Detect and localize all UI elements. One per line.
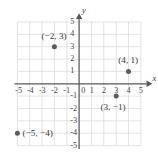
data-point-neg5-neg4[interactable] (15, 131, 20, 136)
coordinate-plane-figure: x y -5 -4 -3 -2 -1 0 1 2 3 4 5 5 4 3 2 1… (0, 0, 158, 158)
y-axis-label: y (81, 5, 86, 15)
data-point-3-neg1[interactable] (114, 94, 119, 99)
x-tick-4: 4 (127, 86, 131, 95)
point-label-neg2-3: (−2, 3) (41, 31, 66, 41)
y-tick-neg2: -2 (70, 104, 77, 113)
point-label-3-neg1: (3, −1) (100, 102, 125, 112)
x-tick-neg5: -5 (15, 86, 22, 95)
x-axis-arrow (147, 81, 153, 87)
y-tick-1: 1 (70, 66, 74, 75)
x-tick-3: 3 (114, 86, 118, 95)
x-tick-neg1: -1 (63, 86, 70, 95)
axis-name-labels: x y (81, 5, 156, 83)
x-tick-neg2: -2 (51, 86, 58, 95)
y-tick-neg4: -4 (70, 128, 77, 137)
data-point-neg2-3[interactable] (52, 44, 57, 49)
coordinate-plane-svg: x y -5 -4 -3 -2 -1 0 1 2 3 4 5 5 4 3 2 1… (0, 0, 158, 158)
x-tick-neg4: -4 (27, 86, 34, 95)
x-tick-1: 1 (90, 86, 94, 95)
data-point-4-1[interactable] (126, 69, 131, 74)
y-tick-5: 5 (70, 17, 74, 26)
y-tick-neg5: -5 (70, 141, 77, 150)
y-tick-3: 3 (70, 42, 74, 51)
point-label-4-1: (4, 1) (118, 55, 138, 65)
x-tick-2: 2 (102, 86, 106, 95)
x-tick-neg3: -3 (39, 86, 46, 95)
point-label-neg5-neg4: (−5, −4) (23, 128, 53, 138)
y-tick-2: 2 (70, 54, 74, 63)
x-tick-origin: 0 (81, 86, 85, 95)
y-tick-4: 4 (70, 29, 74, 38)
y-tick-neg1: -1 (70, 91, 77, 100)
y-tick-neg3: -3 (70, 116, 77, 125)
x-axis-label: x (152, 73, 157, 83)
x-tick-5: 5 (139, 86, 143, 95)
